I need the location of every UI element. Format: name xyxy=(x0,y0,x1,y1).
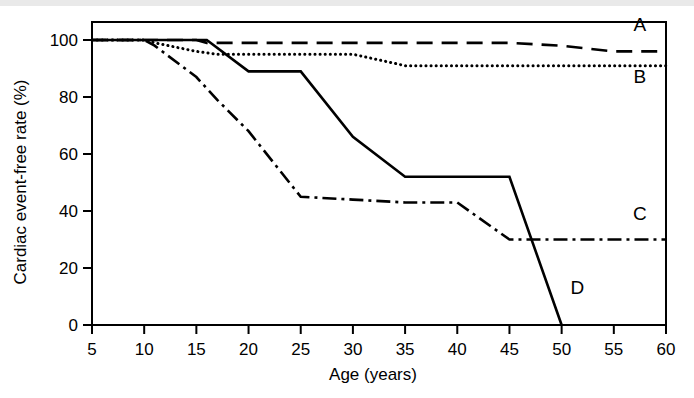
y-axis-tick-labels: 020406080100 xyxy=(50,31,78,335)
x-tick-label: 5 xyxy=(87,340,96,359)
series-end-labels: ABCD xyxy=(570,14,646,297)
y-tick-label: 0 xyxy=(69,316,78,335)
y-axis-ticks xyxy=(83,40,92,325)
series-label-d: D xyxy=(570,277,584,298)
x-tick-label: 60 xyxy=(657,340,676,359)
x-tick-label: 40 xyxy=(448,340,467,359)
cardiac-event-free-survival-chart: 51015202530354045505560 020406080100 ABC… xyxy=(0,0,694,398)
series-line-c xyxy=(92,40,666,240)
x-tick-label: 35 xyxy=(396,340,415,359)
series-label-c: C xyxy=(633,203,647,224)
x-tick-label: 15 xyxy=(187,340,206,359)
series-line-a xyxy=(92,40,666,51)
y-axis-title: Cardiac event-free rate (%) xyxy=(11,79,30,284)
y-tick-label: 60 xyxy=(59,145,78,164)
x-axis-ticks xyxy=(92,325,666,334)
y-tick-label: 20 xyxy=(59,259,78,278)
y-tick-label: 100 xyxy=(50,31,78,50)
x-tick-label: 30 xyxy=(343,340,362,359)
x-tick-label: 10 xyxy=(135,340,154,359)
top-band-decoration xyxy=(0,0,694,6)
x-tick-label: 20 xyxy=(239,340,258,359)
figure-container: 51015202530354045505560 020406080100 ABC… xyxy=(0,0,694,398)
y-tick-label: 80 xyxy=(59,88,78,107)
y-tick-label: 40 xyxy=(59,202,78,221)
x-axis-title: Age (years) xyxy=(329,365,417,384)
series-label-a: A xyxy=(634,14,647,35)
series-label-b: B xyxy=(634,66,647,87)
series-line-d xyxy=(92,40,562,325)
x-axis-tick-labels: 51015202530354045505560 xyxy=(87,340,675,359)
x-tick-label: 45 xyxy=(500,340,519,359)
x-tick-label: 55 xyxy=(604,340,623,359)
x-tick-label: 25 xyxy=(291,340,310,359)
x-tick-label: 50 xyxy=(552,340,571,359)
